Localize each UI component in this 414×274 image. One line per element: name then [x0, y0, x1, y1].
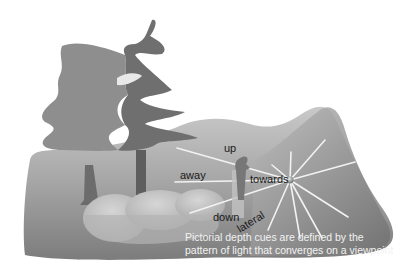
dark-tree-trunk	[136, 150, 146, 195]
label-away: away	[180, 169, 206, 181]
label-up: up	[224, 142, 236, 154]
depth-cues-illustration: up away towards down lateral Pictorial d…	[0, 0, 414, 274]
label-towards: towards	[250, 173, 289, 185]
label-down: down	[213, 211, 239, 223]
light-tree-canopy	[42, 43, 128, 150]
caption-line-2: pattern of light that converges on a vie…	[185, 244, 393, 256]
caption-line-1: Pictorial depth cues are defined by the	[185, 231, 364, 243]
